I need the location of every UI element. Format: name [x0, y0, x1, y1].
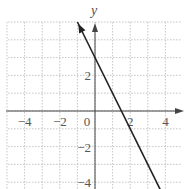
data-series [77, 22, 161, 189]
y-axis-label: y [89, 3, 98, 18]
grid [7, 22, 181, 189]
x-tick-label: 0 [84, 114, 91, 129]
y-tick-label: 2 [85, 68, 92, 83]
y-tick-label: −2 [77, 140, 91, 155]
x-tick-label: 4 [162, 114, 169, 129]
line-graph [77, 22, 161, 189]
line-arrow-icon [78, 24, 85, 34]
x-tick-label: −4 [18, 114, 32, 129]
y-tick-label: −4 [77, 175, 91, 189]
x-axis-arrow-icon [175, 108, 184, 114]
y-axis-arrow-icon [92, 23, 98, 32]
coordinate-plane: −4−2024−4−22 y [0, 0, 187, 189]
x-tick-label: 2 [127, 114, 134, 129]
x-tick-label: −2 [53, 114, 67, 129]
